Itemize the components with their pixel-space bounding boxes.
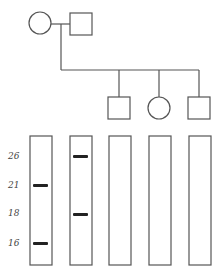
size-label-21: 21 bbox=[8, 180, 19, 190]
gel-lane-3 bbox=[109, 136, 131, 265]
mother-symbol bbox=[29, 12, 51, 34]
band-lane1-21 bbox=[33, 184, 48, 187]
band-lane1-16 bbox=[33, 242, 48, 245]
size-label-18: 18 bbox=[8, 208, 19, 218]
gel-lane-4 bbox=[149, 136, 171, 265]
child-3-symbol bbox=[188, 97, 210, 119]
band-lane2-18 bbox=[73, 213, 88, 216]
pedigree-diagram bbox=[0, 0, 222, 279]
size-label-26: 26 bbox=[8, 151, 19, 161]
father-symbol bbox=[70, 13, 92, 35]
child-1-symbol bbox=[108, 97, 130, 119]
gel-lane-5 bbox=[189, 136, 211, 265]
size-label-16: 16 bbox=[8, 238, 19, 248]
child-2-symbol bbox=[148, 97, 170, 119]
band-lane2-26 bbox=[73, 155, 88, 158]
gel-lane-1 bbox=[30, 136, 52, 265]
